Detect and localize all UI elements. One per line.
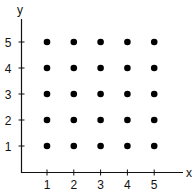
axes: y x [17,3,192,180]
x-axis-label: x [186,166,192,180]
x-tick-label: 4 [124,178,131,192]
data-point [71,39,78,46]
data-point [151,39,158,46]
data-point [97,91,104,98]
data-point [124,117,131,124]
y-tick-label: 4 [5,62,12,76]
data-point [124,65,131,72]
scatter-chart: y x 12345 12345 [0,0,194,194]
data-point [71,143,78,150]
y-axis-label: y [17,3,23,17]
data-point [151,65,158,72]
y-tick-label: 1 [5,140,12,154]
data-points [44,39,158,150]
data-point [97,39,104,46]
data-point [44,39,51,46]
data-point [151,91,158,98]
data-point [71,117,78,124]
x-tick-label: 2 [70,178,77,192]
data-point [124,39,131,46]
data-point [44,117,51,124]
y-tick-label: 2 [5,114,12,128]
data-point [44,143,51,150]
data-point [71,65,78,72]
y-tick-label: 3 [5,88,12,102]
data-point [97,143,104,150]
data-point [124,143,131,150]
x-tick-label: 1 [44,178,51,192]
data-point [44,65,51,72]
x-tick-label: 3 [97,178,104,192]
x-tick-label: 5 [151,178,158,192]
y-tick-label: 5 [5,36,12,50]
data-point [151,143,158,150]
data-point [71,91,78,98]
data-point [151,117,158,124]
data-point [97,117,104,124]
data-point [44,91,51,98]
data-point [97,65,104,72]
data-point [124,91,131,98]
